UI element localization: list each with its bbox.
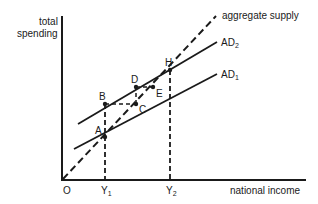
point-c-label: C [139, 104, 146, 115]
ad2-line [78, 42, 217, 124]
point-b-label: B [99, 91, 106, 102]
y2-tick-label: Y2 [166, 185, 177, 199]
y1-tick-base: Y [101, 185, 108, 196]
y1-tick-sub: 1 [108, 190, 112, 197]
point-e-marker [151, 85, 155, 89]
ad1-label: AD1 [221, 69, 239, 83]
point-a-marker [103, 135, 107, 139]
ad2-label: AD2 [221, 37, 239, 51]
aggregate-supply-line [63, 16, 216, 179]
x-axis-label: national income [230, 185, 300, 196]
ad2-label-base: AD [221, 37, 235, 48]
ad2-label-sub: 2 [235, 42, 239, 49]
point-h-label: H [165, 57, 172, 68]
y-axis-label-line1: total [39, 16, 58, 27]
ad1-label-sub: 1 [235, 74, 239, 81]
y1-tick-label: Y1 [101, 185, 112, 199]
point-a-label: A [95, 125, 102, 136]
point-d-marker [134, 85, 138, 89]
point-h-marker [168, 68, 172, 72]
aggregate-supply-label: aggregate supply [222, 10, 299, 21]
point-c-marker [134, 102, 138, 106]
y2-tick-base: Y [166, 185, 173, 196]
point-b-marker [103, 102, 107, 106]
point-d-label: D [131, 74, 138, 85]
origin-label: O [63, 185, 71, 196]
y2-tick-sub: 2 [173, 190, 177, 197]
ad1-label-base: AD [221, 69, 235, 80]
y-axis-label-line2: spending [17, 28, 58, 39]
point-e-label: E [156, 88, 163, 99]
